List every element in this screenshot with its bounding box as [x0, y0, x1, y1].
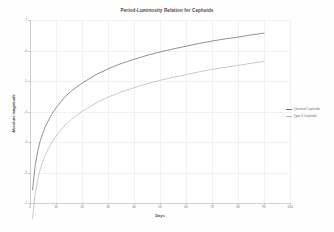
x-axis-title: Days: [30, 213, 290, 218]
legend-swatch-icon: [286, 109, 292, 110]
gridline-horizontal: [30, 81, 290, 82]
legend-label: Classical Cepheids: [294, 108, 320, 111]
x-tick-label: 100: [287, 205, 293, 209]
x-tick-label: 70: [210, 205, 214, 209]
x-tick-label: 0: [29, 205, 31, 209]
x-tick-label: 30: [106, 205, 110, 209]
y-tick-label: -5: [20, 79, 27, 83]
y-tick-label: -6: [20, 49, 27, 53]
chart-title: Period-Luminosity Relation for Cepheids: [0, 8, 334, 13]
x-axis-line: [30, 203, 290, 204]
x-tick-label: 80: [236, 205, 240, 209]
y-tick-label: -3: [20, 140, 27, 144]
y-tick-label: -4: [20, 110, 27, 114]
legend-item[interactable]: Classical Cepheids: [286, 108, 320, 111]
y-axis-line: [30, 20, 31, 203]
chart-figure: Period-Luminosity Relation for Cepheids …: [0, 0, 334, 232]
gridline-horizontal: [30, 112, 290, 113]
y-tick-label: -2: [20, 171, 27, 175]
legend-label: Type II Cepheids: [294, 115, 317, 118]
chart-legend: Classical CepheidsType II Cepheids: [286, 108, 320, 121]
y-tick-label: -1: [20, 201, 27, 205]
x-tick-label: 10: [54, 205, 58, 209]
x-tick-label: 40: [132, 205, 136, 209]
legend-swatch-icon: [286, 116, 292, 117]
x-tick-label: 90: [262, 205, 266, 209]
x-tick-label: 60: [184, 205, 188, 209]
y-axis-title: Absolute magnitude: [11, 74, 16, 154]
gridline-horizontal: [30, 20, 290, 21]
y-tick-label: -7: [20, 18, 27, 22]
gridline-horizontal: [30, 173, 290, 174]
legend-item[interactable]: Type II Cepheids: [286, 115, 320, 118]
gridline-horizontal: [30, 51, 290, 52]
gridline-horizontal: [30, 142, 290, 143]
x-tick-label: 50: [158, 205, 162, 209]
x-tick-label: 20: [80, 205, 84, 209]
